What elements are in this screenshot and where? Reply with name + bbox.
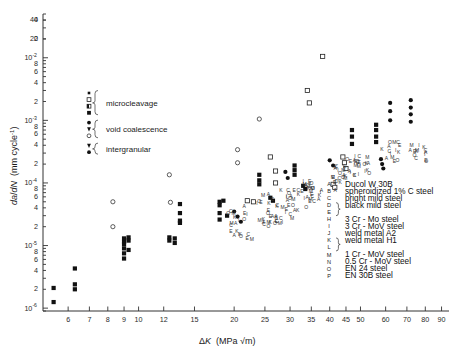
figure-canvas [0,0,454,354]
